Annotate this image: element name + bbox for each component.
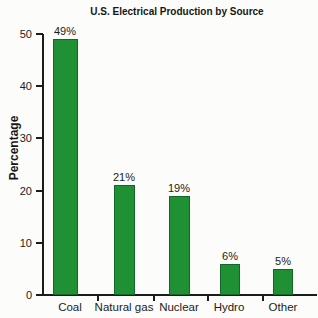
y-tick-40 [36,85,43,87]
y-tick-0 [36,294,43,296]
bar-value-natural-gas: 21% [102,171,146,183]
category-label-other: Other [238,300,318,314]
bar-value-nuclear: 19% [157,182,201,194]
chart-title: U.S. Electrical Production by Source [42,6,312,17]
bar-other [273,269,293,295]
y-tick-label-40: 40 [6,80,32,92]
y-tick-label-50: 50 [6,28,32,40]
bar-coal [53,39,78,295]
bar-chart: U.S. Electrical Production by Source Per… [0,0,318,318]
y-tick-label-10: 10 [6,237,32,249]
bar-value-other: 5% [261,255,305,267]
y-tick-50 [36,33,43,35]
y-tick-label-30: 30 [6,132,32,144]
y-tick-label-20: 20 [6,185,32,197]
y-tick-30 [36,137,43,139]
y-tick-10 [36,242,43,244]
y-tick-20 [36,190,43,192]
bar-nuclear [169,196,190,295]
bar-natural-gas [114,185,135,295]
bar-value-coal: 49% [43,25,87,37]
bar-value-hydro: 6% [208,250,252,262]
y-axis-line [42,34,44,296]
bar-hydro [220,264,240,295]
y-axis-label: Percentage [7,116,21,181]
